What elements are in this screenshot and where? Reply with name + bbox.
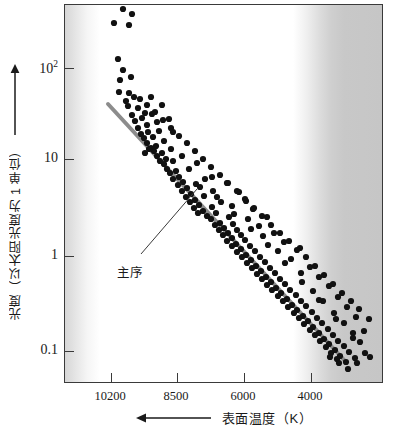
star-point	[125, 103, 131, 109]
star-point	[317, 338, 323, 344]
star-point	[277, 276, 283, 282]
star-point	[336, 360, 342, 366]
star-point	[344, 304, 350, 310]
star-point	[170, 158, 176, 164]
star-point	[208, 216, 214, 222]
star-point	[208, 164, 214, 170]
star-point	[139, 115, 145, 121]
star-point	[179, 188, 185, 194]
star-point	[117, 77, 123, 83]
star-point	[129, 112, 135, 118]
star-point	[126, 90, 132, 96]
x-tick-label-6000: 6000	[213, 390, 273, 403]
star-point	[248, 226, 254, 232]
star-point	[354, 360, 360, 366]
star-point	[209, 204, 215, 210]
star-point	[129, 11, 135, 17]
x-axis-title-label: 表面温度（K）	[222, 408, 312, 427]
star-point	[330, 281, 336, 287]
star-point	[307, 327, 313, 333]
star-point	[132, 118, 138, 124]
y-tick-label-100-exponent: 2	[53, 59, 58, 69]
star-point	[316, 297, 322, 303]
star-point	[194, 160, 200, 166]
star-point	[312, 263, 318, 269]
star-point	[231, 211, 237, 217]
star-point	[362, 350, 368, 356]
star-point	[209, 174, 215, 180]
star-point	[154, 119, 160, 125]
star-point	[195, 210, 201, 216]
star-point	[269, 287, 275, 293]
hr-diagram-figure: 光度（以太阳光度为 1 单位） 102 10 1 0.1 10200 8500 …	[0, 0, 395, 441]
star-point	[287, 287, 293, 293]
star-point	[277, 230, 283, 236]
star-point	[291, 310, 297, 316]
star-point	[218, 199, 224, 205]
star-point	[242, 237, 248, 243]
star-point	[310, 288, 316, 294]
star-point	[179, 153, 185, 159]
star-point	[319, 320, 325, 326]
star-point	[350, 335, 356, 341]
star-point	[224, 238, 230, 244]
star-point	[159, 102, 165, 108]
star-point	[213, 210, 219, 216]
star-point	[148, 94, 154, 100]
star-point	[217, 172, 223, 178]
star-point	[252, 248, 258, 254]
star-point	[335, 338, 341, 344]
star-point	[137, 96, 143, 102]
star-point	[314, 315, 320, 321]
star-point	[345, 366, 351, 372]
star-point	[120, 67, 126, 73]
star-point	[120, 6, 126, 12]
star-point	[186, 166, 192, 172]
star-point	[210, 188, 216, 194]
scatter-plot-canvas	[65, 5, 383, 383]
star-point	[260, 233, 266, 239]
y-tick-label-10: 10	[26, 151, 58, 165]
star-point	[234, 188, 240, 194]
plot-area	[64, 4, 383, 383]
star-point	[201, 193, 207, 199]
y-tick-label-0point1: 0.1	[20, 343, 58, 357]
star-point	[166, 116, 172, 122]
star-point	[294, 247, 300, 253]
star-point	[341, 320, 347, 326]
star-point	[176, 133, 182, 139]
star-point	[192, 148, 198, 154]
star-point	[333, 316, 339, 322]
star-point	[339, 290, 345, 296]
star-point	[202, 176, 208, 182]
star-point	[343, 359, 349, 365]
star-point	[170, 176, 176, 182]
main-sequence-annotation-label: 主序	[117, 262, 143, 281]
star-point	[200, 156, 206, 162]
x-axis-title: 表面温度（K）	[64, 408, 383, 427]
star-point	[160, 117, 166, 123]
star-point	[184, 140, 190, 146]
star-point	[142, 150, 148, 156]
star-point	[126, 22, 132, 28]
star-point	[239, 254, 245, 260]
star-point	[175, 182, 181, 188]
star-point	[229, 203, 235, 209]
star-point	[286, 238, 292, 244]
star-point	[353, 314, 359, 320]
star-point	[242, 196, 248, 202]
star-point	[288, 256, 294, 262]
star-point	[256, 223, 262, 229]
star-point	[346, 349, 352, 355]
star-point	[309, 309, 315, 315]
star-point	[249, 265, 255, 271]
star-point	[296, 315, 302, 321]
star-point	[244, 260, 250, 266]
star-point	[298, 270, 304, 276]
star-point	[275, 248, 281, 254]
star-point	[145, 129, 151, 135]
star-point	[265, 242, 271, 248]
y-axis-up-arrow-icon	[8, 63, 22, 137]
star-point	[144, 122, 150, 128]
star-point	[257, 254, 263, 260]
